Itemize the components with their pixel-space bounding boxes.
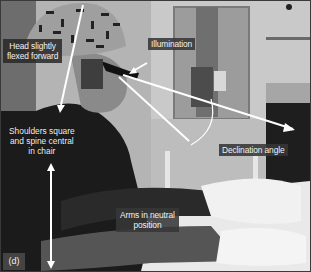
panel-label: (d)	[3, 253, 25, 270]
annotation-illumination: Illumination	[148, 38, 195, 50]
annotation-arms-line1: Arms in neutral	[120, 210, 175, 220]
annotation-head-flexion: Head slightly flexed forward	[3, 39, 62, 63]
annotation-shoulders-spine: Shoulders square and spine central in ch…	[9, 126, 75, 156]
annotation-arms-neutral: Arms in neutral position	[116, 208, 179, 232]
annotation-arms-line2: position	[120, 220, 175, 230]
annotation-shoulders-line1: Shoulders square	[9, 126, 75, 136]
annotation-shoulders-line2: and spine central	[9, 136, 75, 146]
annotated-photo-frame: Head slightly flexed forward Illuminatio…	[0, 0, 311, 272]
annotation-head-line2: flexed forward	[7, 51, 58, 61]
annotation-shoulders-line3: in chair	[9, 146, 75, 156]
annotation-declination-angle: Declination angle	[219, 144, 288, 156]
annotation-head-line1: Head slightly	[7, 41, 58, 51]
